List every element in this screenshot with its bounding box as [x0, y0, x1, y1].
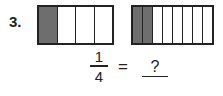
- fraction-numerator: 1: [90, 49, 108, 64]
- unshaded-part: [193, 7, 203, 43]
- unshaded-part: [76, 7, 95, 43]
- unshaded-part: [58, 7, 77, 43]
- fraction-line: [90, 65, 108, 67]
- equals-sign: =: [118, 57, 128, 77]
- fraction-one-fourth: 1 4: [90, 49, 108, 84]
- shaded-part: [143, 7, 153, 43]
- fraction-bar-eighths: [131, 5, 214, 45]
- problem-number: 3.: [9, 13, 22, 30]
- unshaded-part: [173, 7, 183, 43]
- unshaded-part: [203, 7, 212, 43]
- answer-blank[interactable]: ?: [142, 58, 168, 77]
- unshaded-part: [183, 7, 193, 43]
- unshaded-part: [95, 7, 113, 43]
- shaded-part: [133, 7, 143, 43]
- shaded-part: [39, 7, 58, 43]
- unshaded-part: [153, 7, 163, 43]
- fraction-bar-fourths: [37, 5, 114, 45]
- unshaded-part: [163, 7, 173, 43]
- fraction-denominator: 4: [90, 69, 108, 84]
